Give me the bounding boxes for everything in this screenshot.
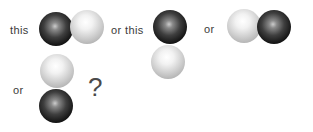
light-ball: [151, 45, 185, 79]
dark-ball: [257, 10, 291, 44]
option-1-label: this: [10, 24, 29, 37]
option-4-label: or: [13, 84, 24, 97]
dark-ball: [39, 89, 73, 123]
light-ball: [40, 54, 74, 88]
option-2-label: or this: [111, 24, 144, 37]
light-ball: [70, 10, 104, 44]
dark-ball: [153, 10, 187, 44]
dark-ball: [39, 12, 73, 46]
question-mark: ?: [88, 74, 102, 100]
ball-arrangement-figure: this or this or or ?: [0, 0, 313, 132]
light-ball: [227, 9, 261, 43]
option-3-label: or: [204, 23, 215, 36]
